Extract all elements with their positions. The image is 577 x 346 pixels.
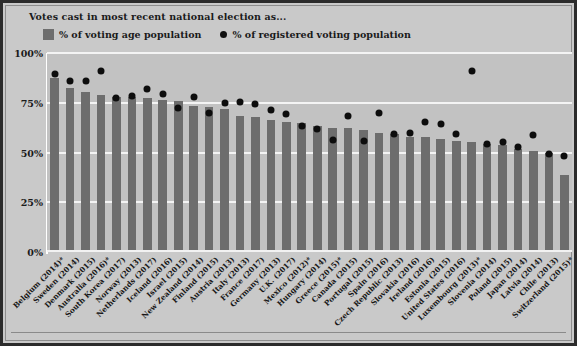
chart-legend: % of voting age population % of register…: [43, 29, 411, 40]
data-point-dot: [514, 144, 521, 151]
data-point-dot: [499, 138, 506, 145]
data-point-dot: [159, 91, 166, 98]
data-point-dot: [82, 78, 89, 85]
data-point-dot: [67, 78, 74, 85]
data-point-dot: [545, 150, 552, 157]
data-point-dot: [128, 93, 135, 100]
data-point-dot: [329, 137, 336, 144]
data-point-dot: [98, 67, 105, 74]
data-point-dot: [252, 100, 259, 107]
legend-label-bars: % of voting age population: [59, 29, 201, 40]
data-point-dot: [206, 109, 213, 116]
data-point-dot: [298, 123, 305, 130]
data-point-dot: [561, 152, 568, 159]
data-point-dot: [267, 106, 274, 113]
data-point-dot: [221, 99, 228, 106]
legend-swatch-icon: [43, 29, 54, 40]
data-point-dot: [314, 126, 321, 133]
data-point-dot: [175, 105, 182, 112]
chart-title: Votes cast in most recent national elect…: [29, 11, 286, 22]
data-point-dot: [375, 110, 382, 117]
plot-area: [47, 53, 572, 252]
y-axis: 100%75%50%25%0%: [3, 53, 43, 252]
data-point-dot: [237, 99, 244, 106]
data-point-dot: [283, 111, 290, 118]
legend-dot-icon: [220, 31, 227, 38]
data-point-dot: [422, 119, 429, 126]
data-point-dot: [530, 131, 537, 138]
data-point-dot: [190, 93, 197, 100]
data-point-dot: [113, 95, 120, 102]
y-tick-label: 0%: [27, 247, 43, 258]
dots-layer: [47, 53, 572, 252]
data-point-dot: [453, 130, 460, 137]
data-point-dot: [391, 130, 398, 137]
x-axis-baseline: [47, 250, 572, 252]
bottom-divider: [11, 332, 566, 333]
data-point-dot: [468, 67, 475, 74]
data-point-dot: [345, 113, 352, 120]
y-tick-label: 100%: [14, 48, 43, 59]
y-tick-label: 75%: [21, 97, 43, 108]
y-tick-label: 25%: [21, 197, 43, 208]
data-point-dot: [484, 141, 491, 148]
data-point-dot: [437, 121, 444, 128]
data-point-dot: [144, 86, 151, 93]
data-point-dot: [406, 130, 413, 137]
data-point-dot: [360, 137, 367, 144]
chart-container: Votes cast in most recent national elect…: [0, 0, 577, 346]
y-tick-label: 50%: [21, 147, 43, 158]
legend-label-dots: % of registered voting population: [232, 29, 410, 40]
data-point-dot: [51, 71, 58, 78]
